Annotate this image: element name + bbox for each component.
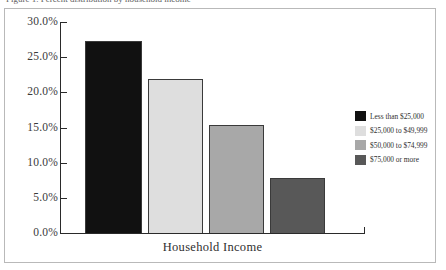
plot-area: 0.0%5.0%10.0%15.0%20.0%25.0%30.0% Less t… <box>5 9 437 264</box>
legend-item-4[interactable]: $75,000 or more <box>355 153 441 168</box>
y-axis-tick-row: 0.0% <box>5 233 58 234</box>
legend-swatch-icon <box>355 111 366 121</box>
legend-swatch-icon <box>355 155 366 165</box>
legend-item-label: $50,000 to $74,999 <box>370 141 427 150</box>
bar-2 <box>148 79 203 233</box>
bar-1 <box>85 41 142 233</box>
legend-item-1[interactable]: Less than $25,000 <box>355 109 441 124</box>
y-axis-tick-mark <box>61 233 67 234</box>
legend-item-label: $75,000 or more <box>370 155 419 164</box>
figure-caption-strip: Figure 1. Percent distribution by househ… <box>0 0 446 7</box>
legend-item-3[interactable]: $50,000 to $74,999 <box>355 138 441 153</box>
chart-figure-frame: 0.0%5.0%10.0%15.0%20.0%25.0%30.0% Less t… <box>4 8 436 263</box>
legend-swatch-icon <box>355 140 366 150</box>
figure-caption-text: Figure 1. Percent distribution by househ… <box>6 0 191 4</box>
legend-swatch-icon <box>355 126 366 136</box>
legend-item-label: $25,000 to $49,999 <box>370 126 427 135</box>
x-axis-title: Household Income <box>60 240 365 255</box>
bar-3 <box>209 125 264 233</box>
legend-item-label: Less than $25,000 <box>370 112 424 121</box>
legend-item-2[interactable]: $25,000 to $49,999 <box>355 124 441 139</box>
chart-legend: Less than $25,000$25,000 to $49,999$50,0… <box>355 109 441 167</box>
bar-4 <box>270 178 325 233</box>
x-axis-line <box>60 233 365 234</box>
